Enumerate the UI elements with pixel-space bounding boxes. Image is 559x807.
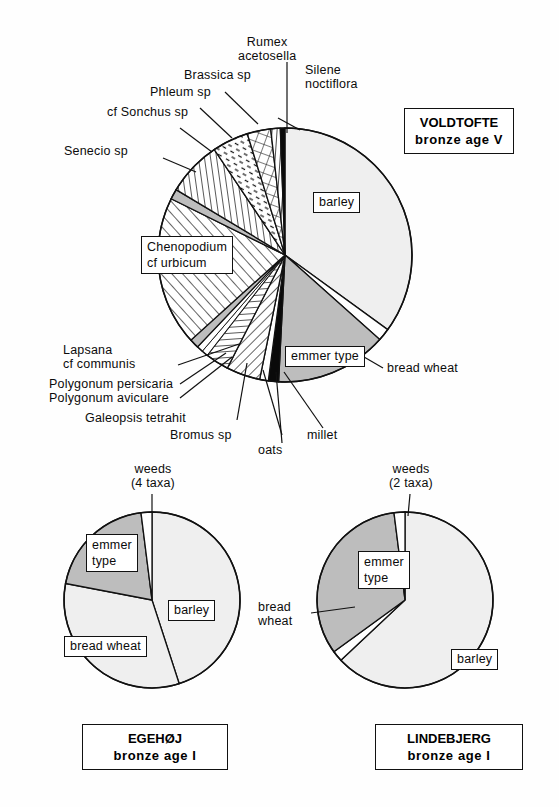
label-senecio-sp: Senecio sp: [64, 144, 128, 158]
label-brassica-sp: Brassica sp: [184, 68, 251, 82]
site-box-egehoj: EGEHØJ bronze age I: [82, 724, 228, 770]
label-bread-wheat-egehoj: bread wheat: [64, 636, 147, 657]
label-oats: oats: [258, 443, 282, 457]
label-silene-noctiflora: Silene noctiflora: [305, 63, 358, 91]
label-bread-wheat-voldtofte: bread wheat: [387, 361, 458, 375]
label-cf-sonchus-sp: cf Sonchus sp: [107, 105, 188, 119]
label-barley-voldtofte: barley: [313, 192, 360, 213]
label-emmer-type-egehoj: emmer type: [86, 534, 138, 572]
site-subtitle-lindebjerg: bronze age I: [386, 747, 512, 764]
label-weeds-egehoj: weeds (4 taxa): [114, 462, 192, 490]
site-title-egehoj: EGEHØJ: [93, 730, 217, 747]
label-lapsana-cf-communis: Lapsana cf communis: [63, 343, 135, 371]
label-polygonum-persicaria: Polygonum persicaria: [49, 377, 173, 391]
label-rumex-acetosella: Rumex acetosella: [238, 35, 296, 63]
site-title-lindebjerg: LINDEBJERG: [386, 730, 512, 747]
label-polygonum-aviculare: Polygonum aviculare: [49, 391, 169, 405]
site-subtitle-voldtofte: bronze age V: [415, 131, 503, 148]
label-millet: millet: [307, 428, 337, 442]
label-emmer-type-lindebjerg: emmer type: [358, 551, 410, 589]
site-box-lindebjerg: LINDEBJERG bronze age I: [375, 724, 523, 770]
site-subtitle-egehoj: bronze age I: [93, 747, 217, 764]
site-box-voldtofte: VOLDTOFTE bronze age V: [404, 108, 514, 154]
label-emmer-type-voldtofte: emmer type: [285, 346, 365, 367]
figure-canvas: Rumex acetosella Silene noctiflora Brass…: [0, 0, 559, 807]
label-phleum-sp: Phleum sp: [150, 85, 211, 99]
label-weeds-lindebjerg: weeds (2 taxa): [372, 462, 450, 490]
label-barley-lindebjerg: barley: [451, 649, 498, 670]
label-barley-egehoj: barley: [168, 600, 215, 621]
label-bread-wheat-lindebjerg: bread wheat: [258, 600, 292, 628]
label-chenopodium-cf-urbicum: Chenopodium cf urbicum: [141, 236, 233, 274]
label-galeopsis-tetrahit: Galeopsis tetrahit: [85, 411, 186, 425]
label-bromus-sp: Bromus sp: [170, 428, 232, 442]
site-title-voldtofte: VOLDTOFTE: [415, 114, 503, 131]
